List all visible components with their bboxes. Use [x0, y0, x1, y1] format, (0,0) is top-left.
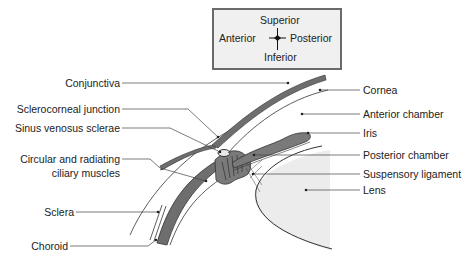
label-conjunctiva: Conjunctiva	[65, 77, 120, 89]
label-ciliary-muscles-line1: Circular and radiating	[20, 153, 120, 165]
label-posterior-chamber: Posterior chamber	[363, 149, 449, 161]
compass-cross-icon	[214, 10, 340, 68]
label-sclera: Sclera	[44, 206, 74, 218]
label-anterior-chamber: Anterior chamber	[363, 108, 444, 120]
conjunctiva-shape	[160, 145, 216, 170]
label-sclerocorneal-junction: Sclerocorneal junction	[17, 103, 120, 115]
label-choroid: Choroid	[31, 240, 68, 252]
label-sinus-venosus-sclerae: Sinus venosus sclerae	[15, 122, 120, 134]
label-ciliary-muscles-line2: ciliary muscles	[52, 167, 120, 179]
label-suspensory-ligament: Suspensory ligament	[363, 168, 461, 180]
label-cornea: Cornea	[363, 84, 397, 96]
label-lens: Lens	[363, 184, 386, 196]
eye-anatomy-diagram: Superior Anterior Posterior Inferior Con…	[0, 0, 472, 263]
choroid-band	[157, 160, 224, 245]
orientation-compass: Superior Anterior Posterior Inferior	[212, 8, 342, 70]
label-iris: Iris	[363, 127, 377, 139]
